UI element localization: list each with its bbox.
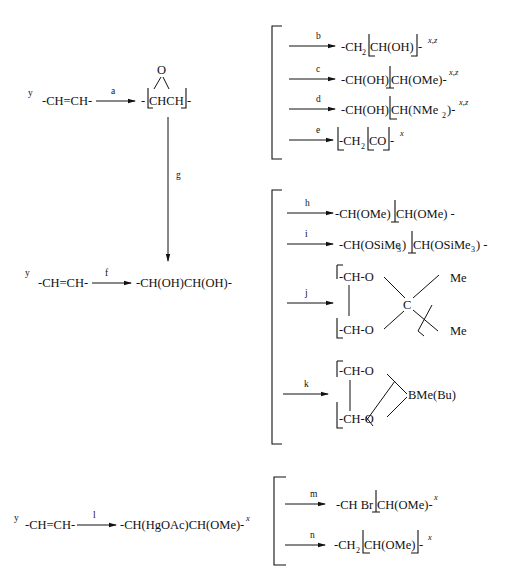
bond-b-tick-top (387, 374, 407, 394)
product-i-part1: -CH(OSiMe (339, 238, 401, 252)
product-b-part1: -CH (341, 40, 363, 54)
row3-oxymercuration: y -CH=CH- l -CH(HgOAc)CH(OMe)- x (14, 510, 250, 532)
product-d-part1: -CH(OH) (341, 103, 389, 117)
arrow-label-e: e (316, 125, 320, 135)
reaction-j: j -CH-O -CH-O C Me Me (287, 265, 467, 338)
row2-dihydroxylation: y -CH=CH- f -CH(OH)CH(OH)- (25, 268, 232, 290)
reaction-i: i -CH(OSiMe 3 ) CH(OSiMe 3 ) - (287, 229, 487, 254)
reaction-e: e -CH 2 CO - x (289, 125, 404, 151)
product-j-carbon: C (403, 298, 411, 312)
product-i-part4: ) - (476, 238, 487, 252)
bond-c-me-bottom (413, 310, 438, 331)
product-m-part2: CH(OMe)- (377, 498, 433, 512)
reactant-alkene-row2: -CH=CH- (38, 276, 88, 290)
reactant-alkene-row3: -CH=CH- (25, 518, 75, 532)
methyl-bottom: Me (450, 324, 467, 338)
y-label: y (28, 88, 33, 98)
arrow-label-f: f (105, 268, 109, 278)
arrow-label-a: a (111, 86, 116, 96)
branch2-bracket (272, 190, 282, 444)
crossing-bond (418, 305, 432, 331)
reaction-scheme: y -CH=CH- a O - CHCH - b -CH 2 CH(OH) - … (0, 0, 511, 578)
product-e-sup: x (399, 128, 404, 138)
product-e-part1: -CH (339, 134, 361, 148)
reaction-c: c -CH(OH) CH(OMe)- x,z (289, 64, 459, 88)
arrow-label-j: j (304, 288, 308, 298)
product-n-part1: -CH (334, 538, 356, 552)
product-m-sup: x (433, 492, 438, 502)
arrow-label-b: b (316, 31, 321, 41)
product-b-sub: 2 (362, 48, 366, 57)
reaction-m: m -CH Br CH(OMe)- x (285, 489, 438, 512)
product-b-part3: - (418, 40, 422, 54)
epoxide-dash-right: - (187, 94, 191, 108)
branch1-bracket (272, 26, 282, 159)
arrow-label-m: m (310, 489, 318, 499)
crossing-bond-tick (418, 331, 424, 336)
arrow-label-i: i (305, 229, 308, 239)
reaction-n: n -CH 2 CH(OMe) - x (285, 530, 432, 555)
product-i-part3: CH(OSiMe (413, 238, 471, 252)
reaction-h: h -CH(OMe) CH(OMe) - (287, 198, 455, 222)
product-k-bottom: -CH-O (339, 412, 374, 426)
arrow-label-l: l (93, 510, 96, 520)
arrow-label-c: c (316, 64, 320, 74)
product-b-sup: x,z (427, 35, 438, 45)
y-label-row2: y (25, 268, 30, 278)
reaction-k: k -CH-O -CH-O BMe(Bu) (283, 361, 456, 428)
product-b-part2: CH(OH) (370, 40, 414, 54)
product-d-sub: 2 (442, 111, 446, 120)
product-d-sup: x,z (458, 97, 469, 107)
product-n-part3: - (419, 538, 423, 552)
reaction-d: d -CH(OH) CH(NMe 2 )- x,z (289, 94, 469, 120)
epoxide-body: CHCH (149, 94, 184, 108)
reaction-b: b -CH 2 CH(OH) - x,z (289, 31, 438, 57)
product-mercurial: -CH(HgOAc)CH(OMe)- (120, 518, 244, 532)
methyl-top: Me (450, 271, 467, 285)
product-d-part3: )- (447, 103, 455, 117)
product-l-sup: x (245, 513, 250, 523)
product-i-sub2: 3 (471, 245, 475, 254)
row1-epoxidation: y -CH=CH- a O - CHCH - (28, 63, 191, 108)
product-j-bottom: -CH-O (339, 323, 374, 337)
product-n-sub: 2 (356, 546, 360, 555)
arrow-label-d: d (316, 94, 321, 104)
product-e-part3: - (390, 134, 394, 148)
product-e-sub: 2 (361, 142, 365, 151)
product-n-sup: x (427, 532, 432, 542)
product-d-part2: CH(NMe (391, 103, 439, 117)
epoxide-oxygen: O (157, 63, 166, 77)
arrow-label-k: k (304, 379, 309, 389)
y-label-row3: y (14, 513, 19, 523)
reactant-alkene: -CH=CH- (42, 94, 92, 108)
product-h-part2: CH(OMe) - (396, 207, 455, 221)
arrow-label-g: g (176, 170, 181, 180)
epoxide-dash-left: - (141, 94, 145, 108)
product-k-top: -CH-O (339, 364, 374, 378)
product-m-part1: -CH Br (336, 498, 374, 512)
epoxide-bond-right (163, 77, 169, 89)
bond-c-me-top (413, 275, 439, 298)
product-diol: -CH(OH)CH(OH)- (136, 276, 232, 290)
bond-o-b-bottom (387, 397, 407, 417)
product-e-part2: CO (369, 134, 386, 148)
bond-o-c-bottom (384, 311, 404, 329)
product-j-top: -CH-O (339, 270, 374, 284)
product-n-part2: CH(OMe) (364, 538, 415, 552)
product-i-part2: ) (402, 238, 406, 252)
boron-group: BMe(Bu) (408, 388, 456, 402)
product-c-part2: CH(OMe)- (391, 73, 447, 87)
arrow-label-h: h (305, 198, 310, 208)
epoxide-bond-left (154, 77, 161, 89)
bond-o-c-top (384, 277, 405, 298)
product-i-sub1: 3 (397, 245, 401, 254)
product-c-part1: -CH(OH) (341, 73, 389, 87)
product-c-sup: x,z (448, 67, 459, 77)
bond-o-b-top (366, 381, 395, 421)
branch3-bracket (274, 477, 286, 565)
product-h-part1: -CH(OMe) (335, 207, 391, 221)
arrow-label-n: n (310, 530, 315, 540)
